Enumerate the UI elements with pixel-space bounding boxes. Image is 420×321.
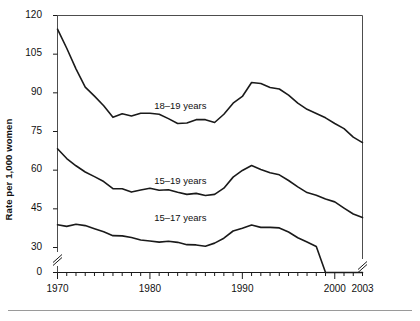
- x-tick-label: 1970: [38, 283, 78, 294]
- series-line-1: [58, 29, 363, 142]
- series-label-2: 15–19 years: [152, 175, 208, 186]
- x-tick-label: 1990: [222, 283, 262, 294]
- footer-divider: [8, 310, 412, 311]
- x-tick-label: 1980: [130, 283, 170, 294]
- x-tick-label: 2003: [343, 283, 383, 294]
- right-axis-break-icon: [358, 259, 367, 273]
- series-line-2: [58, 149, 363, 218]
- y-tick-label: 120: [12, 9, 42, 20]
- line-chart: [0, 0, 420, 321]
- y-tick-label: 0: [12, 266, 42, 277]
- figure: Rate per 1,000 women 0304560759010512019…: [0, 0, 420, 321]
- y-axis-ticks: [53, 16, 58, 273]
- series-label-1: 18–19 years: [152, 100, 208, 111]
- plot-frame: [58, 16, 363, 273]
- y-tick-label: 60: [12, 163, 42, 174]
- y-tick-label: 30: [12, 241, 42, 252]
- y-tick-label: 90: [12, 86, 42, 97]
- y-axis-break-icon: [53, 252, 62, 266]
- x-axis-ticks: [58, 273, 363, 280]
- series-line-3: [58, 224, 363, 272]
- y-tick-label: 45: [12, 202, 42, 213]
- series-label-3: 15–17 years: [152, 212, 208, 223]
- y-tick-label: 105: [12, 47, 42, 58]
- y-tick-label: 75: [12, 125, 42, 136]
